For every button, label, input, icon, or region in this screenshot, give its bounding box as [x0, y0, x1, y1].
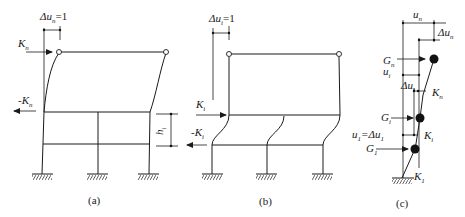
force-arrow-ki: Ki: [195, 98, 226, 115]
hinge-icon: [164, 50, 169, 55]
fixed-support-icon: [202, 174, 223, 180]
svg-text:Δun=1: Δun=1: [39, 10, 67, 25]
label-gi: Gi: [381, 111, 391, 126]
fixed-support-icon: [32, 174, 53, 180]
label-dun: Δun: [437, 26, 454, 41]
panel-c: un Δun Gn ui Δui Kn Gi u1=Δu1: [352, 8, 454, 210]
displacement-dimension-a: Δun=1: [39, 10, 67, 112]
fixed-support-icon: [312, 174, 333, 180]
svg-text:hi: hi: [153, 128, 168, 136]
caption-a: (a): [88, 194, 101, 207]
label-kn: Kn: [431, 86, 443, 101]
label-u1: u1=Δu1: [352, 128, 384, 143]
svg-text:-Kn: -Kn: [18, 94, 33, 109]
svg-text:Ki: Ki: [195, 98, 205, 113]
fixed-support-icon: [392, 178, 414, 184]
fixed-support-icon: [138, 174, 159, 180]
svg-text:-Ki: -Ki: [191, 126, 204, 141]
hinge-icon: [337, 52, 342, 57]
panel-b: Δui=1 Ki -Ki: [187, 12, 342, 208]
force-arrow-minus-kn: -Kn: [14, 94, 36, 111]
caption-c: (c): [396, 197, 409, 210]
label-ki: Ki: [423, 129, 433, 144]
label-k1: K1: [413, 170, 425, 185]
height-dimension-hi: hi: [153, 113, 178, 148]
caption-b: (b): [259, 195, 272, 208]
label-ui: ui: [383, 65, 391, 80]
structural-diagram: Δun=1 Kn -Kn: [0, 0, 465, 217]
label-un: un: [413, 8, 423, 23]
force-arrow-minus-ki: -Ki: [187, 126, 207, 145]
fixed-support-icon: [256, 174, 277, 180]
label-dui: Δui: [400, 79, 415, 94]
svg-text:Δui=1: Δui=1: [208, 12, 235, 27]
force-arrow-kn: Kn: [17, 37, 52, 52]
hinge-icon: [57, 50, 62, 55]
fixed-support-icon: [87, 174, 108, 180]
label-g1: G1: [366, 142, 377, 157]
svg-text:Kn: Kn: [17, 37, 29, 52]
hinge-icon: [227, 52, 232, 57]
panel-a: Δun=1 Kn -Kn: [14, 10, 178, 207]
